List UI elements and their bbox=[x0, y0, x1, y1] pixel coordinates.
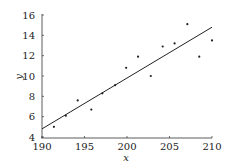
data-point bbox=[198, 56, 200, 58]
axes bbox=[41, 14, 212, 138]
data-point bbox=[211, 39, 213, 41]
data-point bbox=[174, 42, 176, 44]
x-tick-label: 200 bbox=[117, 141, 136, 152]
data-point bbox=[101, 92, 103, 94]
x-tick-label: 195 bbox=[75, 141, 94, 152]
data-point bbox=[90, 108, 92, 110]
scatter-chart: 46810121416190195200205210 x y bbox=[0, 0, 229, 168]
y-tick-label: 10 bbox=[22, 71, 35, 82]
data-point bbox=[150, 75, 152, 77]
data-point bbox=[186, 23, 188, 25]
x-tick-label: 205 bbox=[160, 141, 179, 152]
data-points bbox=[53, 23, 213, 128]
y-tick-label: 14 bbox=[22, 30, 35, 41]
data-point bbox=[114, 84, 116, 86]
x-axis-label: x bbox=[123, 152, 129, 163]
y-tick-label: 16 bbox=[22, 10, 35, 21]
y-tick-label: 6 bbox=[29, 111, 35, 122]
y-tick-label: 12 bbox=[22, 50, 35, 61]
data-point bbox=[137, 56, 139, 58]
y-axis-label: y bbox=[13, 74, 24, 81]
x-tick-label: 210 bbox=[202, 141, 221, 152]
data-point bbox=[162, 45, 164, 47]
data-point bbox=[65, 115, 67, 117]
data-point bbox=[77, 99, 79, 101]
data-point bbox=[53, 126, 55, 128]
y-tick-label: 8 bbox=[29, 91, 35, 102]
regression-line bbox=[42, 27, 212, 129]
x-tick-label: 190 bbox=[32, 141, 51, 152]
data-point bbox=[125, 67, 127, 69]
fit-line bbox=[42, 27, 212, 129]
